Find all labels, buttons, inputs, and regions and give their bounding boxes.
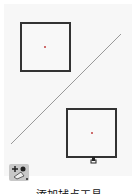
- figure-caption: 添加捕点工具: [0, 186, 137, 194]
- add-snap-point-tool-icon[interactable]: [9, 164, 29, 181]
